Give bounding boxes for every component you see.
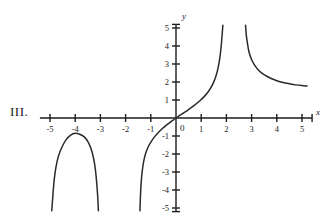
y-tick-label: -3 — [162, 167, 169, 177]
y-tick-label: 3 — [165, 59, 169, 69]
figure-container: III. -5-4-3-2-11234554321-1-2-3-4-50xy — [0, 0, 332, 223]
y-tick-label: -4 — [162, 185, 170, 195]
axis-labels-group: -5-4-3-2-11234554321-1-2-3-4-50xy — [46, 11, 320, 213]
x-tick-label: -4 — [72, 124, 80, 134]
x-tick-label: -3 — [97, 124, 104, 134]
x-tick-label: 4 — [275, 124, 280, 134]
y-tick-label: -5 — [162, 203, 169, 213]
x-tick-label: -2 — [122, 124, 129, 134]
y-tick-label: -2 — [162, 149, 169, 159]
y-tick-label: -1 — [162, 131, 169, 141]
y-tick-label: 5 — [165, 23, 169, 33]
x-tick-label: 3 — [249, 124, 253, 134]
origin-label: 0 — [180, 123, 185, 133]
curve-branch-left — [52, 133, 99, 210]
x-tick-label: 2 — [224, 124, 228, 134]
x-tick-label: -5 — [46, 124, 53, 134]
coordinate-plot: -5-4-3-2-11234554321-1-2-3-4-50xy — [0, 0, 332, 223]
y-tick-label: 2 — [165, 77, 169, 87]
x-tick-label: -1 — [147, 124, 154, 134]
curve-branch-right — [246, 25, 307, 86]
y-tick-label: 1 — [165, 95, 169, 105]
x-tick-label: 1 — [199, 124, 203, 134]
y-axis-label: y — [181, 11, 186, 21]
y-tick-label: 4 — [165, 41, 170, 51]
x-tick-label: 5 — [300, 124, 304, 134]
x-axis-label: x — [315, 107, 320, 117]
